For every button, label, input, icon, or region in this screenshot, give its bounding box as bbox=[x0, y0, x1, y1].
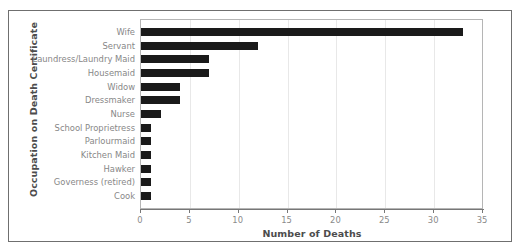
x-axis-tick-label: 0 bbox=[125, 215, 155, 225]
bar bbox=[141, 110, 161, 118]
category-label: Nurse bbox=[30, 110, 135, 118]
bar bbox=[141, 137, 151, 145]
y-axis-category-labels: WifeServantLaundress/Laundry MaidHousema… bbox=[30, 22, 135, 206]
bar bbox=[141, 28, 463, 36]
bar bbox=[141, 83, 180, 91]
x-axis-tick-label: 20 bbox=[320, 215, 350, 225]
category-label: Laundress/Laundry Maid bbox=[30, 55, 135, 63]
bar bbox=[141, 69, 209, 77]
bar bbox=[141, 96, 180, 104]
x-axis-tick-label: 10 bbox=[223, 215, 253, 225]
bar bbox=[141, 192, 151, 200]
x-axis-tick bbox=[433, 209, 434, 213]
category-label: Kitchen Maid bbox=[30, 151, 135, 159]
x-axis-tick bbox=[335, 209, 336, 213]
gridline bbox=[288, 20, 289, 208]
x-axis-tick-label: 15 bbox=[272, 215, 302, 225]
category-label: School Proprietress bbox=[30, 124, 135, 132]
category-label: Parlourmaid bbox=[30, 137, 135, 145]
bar bbox=[141, 165, 151, 173]
x-axis-title: Number of Deaths bbox=[140, 228, 484, 239]
category-label: Cook bbox=[30, 192, 135, 200]
category-label: Servant bbox=[30, 42, 135, 50]
x-axis-tick-label: 35 bbox=[467, 215, 497, 225]
x-axis-tick-label: 5 bbox=[174, 215, 204, 225]
bar bbox=[141, 124, 151, 132]
x-axis-tick bbox=[482, 209, 483, 213]
gridline bbox=[336, 20, 337, 208]
chart-figure: Occupation on Death Certificate WifeServ… bbox=[0, 0, 526, 252]
plot-area bbox=[140, 19, 483, 209]
bar bbox=[141, 42, 258, 50]
x-axis-tick bbox=[140, 209, 141, 213]
bar bbox=[141, 151, 151, 159]
gridline bbox=[385, 20, 386, 208]
x-axis-tick bbox=[189, 209, 190, 213]
x-axis-tick-label: 30 bbox=[418, 215, 448, 225]
category-label: Housemaid bbox=[30, 69, 135, 77]
category-label: Governess (retired) bbox=[30, 178, 135, 186]
bar bbox=[141, 178, 151, 186]
bar bbox=[141, 55, 209, 63]
category-label: Dressmaker bbox=[30, 96, 135, 104]
x-axis-tick bbox=[287, 209, 288, 213]
x-axis-tick-label: 25 bbox=[369, 215, 399, 225]
x-axis-tick bbox=[238, 209, 239, 213]
category-label: Hawker bbox=[30, 165, 135, 173]
category-label: Widow bbox=[30, 83, 135, 91]
category-label: Wife bbox=[30, 28, 135, 36]
x-axis-tick bbox=[384, 209, 385, 213]
gridline bbox=[434, 20, 435, 208]
